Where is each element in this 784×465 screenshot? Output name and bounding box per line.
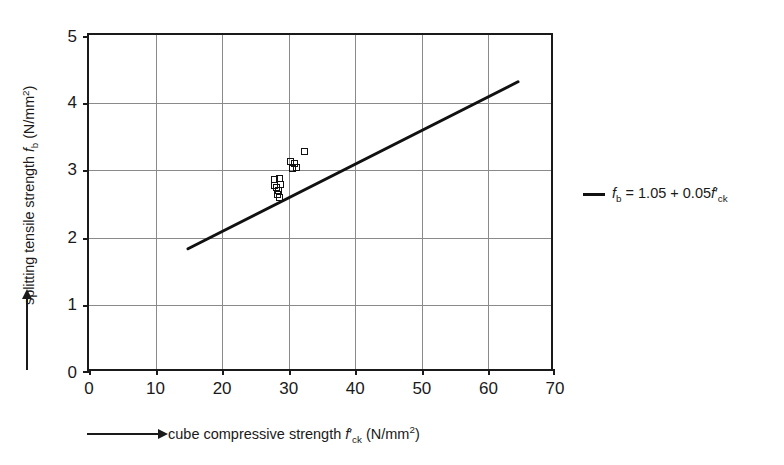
y-axis-symbol: f bbox=[21, 148, 37, 152]
data-point bbox=[276, 194, 283, 201]
y-axis-units-exponent: 2 bbox=[20, 91, 31, 96]
legend: fb = 1.05 + 0.05f′ck bbox=[583, 185, 728, 204]
x-axis-symbol-subscript: ck bbox=[352, 434, 362, 445]
x-tick-mark bbox=[488, 369, 490, 375]
x-axis-units-close: ) bbox=[415, 426, 420, 442]
x-tick-label: 0 bbox=[84, 379, 93, 399]
legend-symbol-2-subscript: ck bbox=[718, 193, 728, 204]
regression-line-path bbox=[188, 82, 518, 249]
y-axis-units-open: (N/mm bbox=[21, 96, 37, 143]
legend-line-swatch bbox=[583, 193, 605, 196]
x-tick-mark bbox=[355, 369, 357, 375]
x-tick-label: 50 bbox=[412, 379, 431, 399]
x-tick-mark bbox=[553, 369, 555, 375]
y-axis-symbol-subscript: b bbox=[29, 143, 40, 148]
legend-equation: = 1.05 + 0.05 bbox=[622, 185, 712, 201]
y-tick-label: 5 bbox=[68, 27, 77, 47]
x-axis-units-open: (N/mm bbox=[362, 426, 410, 442]
x-tick-mark bbox=[289, 369, 291, 375]
data-point bbox=[273, 184, 280, 191]
y-tick-label: 4 bbox=[68, 93, 77, 113]
chart-figure: splitting tensile strength fb (N/mm2) 0 … bbox=[0, 0, 784, 465]
x-tick-label: 60 bbox=[479, 379, 498, 399]
y-tick-label: 1 bbox=[68, 295, 77, 315]
x-axis-title-prefix: cube compressive strength bbox=[168, 426, 345, 442]
y-axis-title: splitting tensile strength fb (N/mm2) bbox=[20, 15, 41, 375]
x-axis-title-group: cube compressive strength f′ck (N/mm2) bbox=[87, 424, 420, 445]
x-tick-label: 20 bbox=[213, 379, 232, 399]
x-tick-label: 40 bbox=[346, 379, 365, 399]
y-axis-title-prefix: splitting tensile strength bbox=[21, 152, 37, 305]
y-tick-label: 3 bbox=[68, 160, 77, 180]
regression-line bbox=[89, 35, 551, 369]
x-axis-title: cube compressive strength f′ck (N/mm2) bbox=[168, 424, 420, 445]
plot-area: 0 1 2 3 4 5 0 10 20 30 40 50 60 70 bbox=[87, 33, 553, 371]
y-axis-units-close: ) bbox=[21, 86, 37, 91]
x-tick-label: 30 bbox=[279, 379, 298, 399]
y-tick-label: 2 bbox=[68, 228, 77, 248]
data-point bbox=[301, 148, 308, 155]
x-tick-mark bbox=[89, 369, 91, 375]
data-point bbox=[293, 164, 300, 171]
x-tick-mark bbox=[222, 369, 224, 375]
y-axis-arrow-icon bbox=[26, 298, 28, 370]
x-tick-mark bbox=[156, 369, 158, 375]
y-tick-label: 0 bbox=[68, 363, 77, 383]
x-tick-label: 10 bbox=[146, 379, 165, 399]
x-axis-arrow-icon bbox=[87, 433, 159, 435]
x-tick-label: 70 bbox=[546, 379, 565, 399]
legend-label: fb = 1.05 + 0.05f′ck bbox=[612, 185, 728, 204]
x-tick-mark bbox=[422, 369, 424, 375]
y-axis-title-group: splitting tensile strength fb (N/mm2) bbox=[0, 0, 60, 400]
